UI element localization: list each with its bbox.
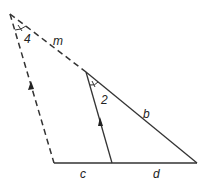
label-c: c [80,167,86,181]
dashed-line-m [10,14,86,72]
geometry-diagram: 4 2 m b c d [0,0,209,184]
label-d: d [153,167,160,181]
label-angle-2: 2 [100,93,108,107]
label-m: m [53,34,63,48]
label-angle-4: 4 [24,32,31,46]
inner-line [86,72,112,163]
side-b [86,72,197,163]
label-b: b [143,107,150,121]
arrow-icon-left [28,81,34,90]
angle-tick-mid [92,81,95,87]
